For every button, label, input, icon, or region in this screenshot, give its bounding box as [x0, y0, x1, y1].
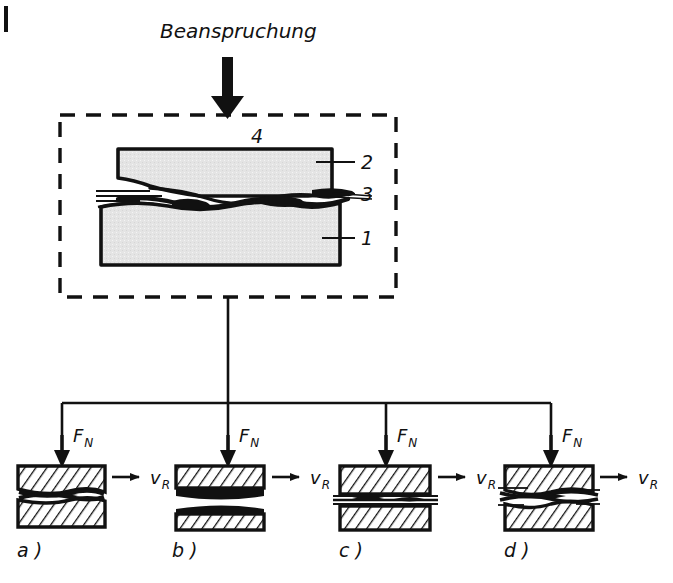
panel-c-caption: c ) — [339, 539, 363, 561]
svg-text:3: 3 — [361, 183, 373, 205]
lower-body — [101, 202, 340, 265]
callout-4: 4 — [251, 125, 263, 147]
panel-c-upper-body — [340, 466, 430, 494]
panel-a-caption: a ) — [17, 539, 42, 561]
panel-d-caption: d ) — [504, 539, 530, 561]
panel-b-lower-body — [176, 514, 264, 530]
svg-text:2: 2 — [361, 151, 373, 173]
figure-root: Beanspruchung 4 2 3 — [0, 0, 673, 583]
panel-c-lower-body — [340, 506, 430, 530]
svg-text:1: 1 — [361, 227, 373, 249]
figure-title: Beanspruchung — [160, 19, 317, 43]
svg-text:4: 4 — [251, 125, 263, 147]
panel-b-upper-body — [176, 466, 264, 488]
page-edge-rule — [4, 6, 8, 32]
panel-b-caption: b ) — [172, 539, 198, 561]
tribology-figure: Beanspruchung 4 2 3 — [0, 0, 673, 583]
panel-a-lower-body — [18, 498, 105, 527]
